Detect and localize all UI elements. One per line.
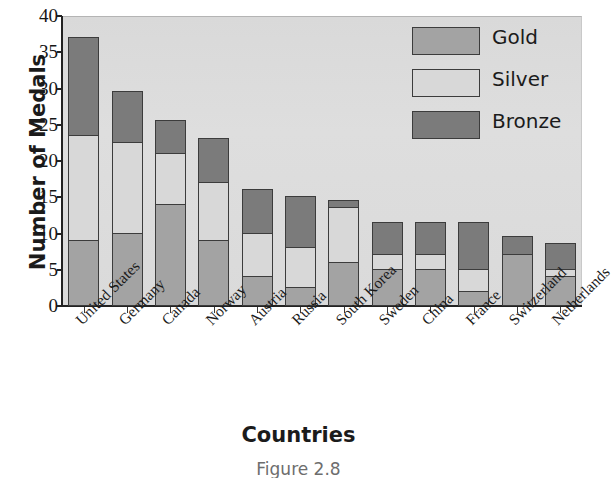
x-tick-mark bbox=[344, 307, 345, 313]
bar-segment-gold[interactable] bbox=[502, 254, 533, 306]
bar-segment-silver[interactable] bbox=[328, 207, 359, 262]
y-tick-label: 35 bbox=[24, 42, 58, 61]
bar-segment-silver[interactable] bbox=[372, 254, 403, 270]
bar-france[interactable] bbox=[458, 223, 489, 306]
bar-netherlands[interactable] bbox=[545, 244, 576, 306]
x-axis-title: Countries bbox=[0, 423, 597, 447]
legend: GoldSilverBronze bbox=[412, 24, 580, 150]
bar-segment-gold[interactable] bbox=[285, 287, 316, 306]
x-tick-mark bbox=[84, 307, 85, 313]
bar-segment-silver[interactable] bbox=[285, 247, 316, 288]
bar-segment-gold[interactable] bbox=[112, 233, 143, 307]
y-tick-label: 10 bbox=[24, 224, 58, 243]
bar-segment-bronze[interactable] bbox=[68, 37, 99, 136]
y-tick-label: 5 bbox=[24, 260, 58, 279]
bar-segment-bronze[interactable] bbox=[242, 189, 273, 234]
bar-germany[interactable] bbox=[112, 92, 143, 306]
legend-label: Silver bbox=[492, 67, 548, 91]
bar-segment-gold[interactable] bbox=[155, 204, 186, 307]
legend-item-bronze[interactable]: Bronze bbox=[412, 108, 580, 150]
bar-united-states[interactable] bbox=[68, 38, 99, 306]
bar-segment-silver[interactable] bbox=[458, 269, 489, 292]
y-tick-label: 20 bbox=[24, 151, 58, 170]
bar-segment-bronze[interactable] bbox=[458, 222, 489, 270]
bar-norway[interactable] bbox=[198, 139, 229, 306]
legend-label: Bronze bbox=[492, 109, 561, 133]
bar-china[interactable] bbox=[415, 223, 446, 306]
bar-austria[interactable] bbox=[242, 190, 273, 306]
bar-segment-bronze[interactable] bbox=[328, 200, 359, 208]
x-tick-mark bbox=[257, 307, 258, 313]
x-tick-mark bbox=[430, 307, 431, 313]
x-tick-mark bbox=[300, 307, 301, 313]
bar-segment-gold[interactable] bbox=[198, 240, 229, 306]
bar-segment-bronze[interactable] bbox=[155, 120, 186, 154]
bar-segment-silver[interactable] bbox=[242, 233, 273, 278]
bar-russia[interactable] bbox=[285, 197, 316, 306]
y-tick-label: 30 bbox=[24, 79, 58, 98]
bar-segment-silver[interactable] bbox=[545, 269, 576, 277]
y-tick-label: 15 bbox=[24, 187, 58, 206]
bar-segment-bronze[interactable] bbox=[285, 196, 316, 248]
bar-south-korea[interactable] bbox=[328, 201, 359, 306]
x-tick-mark bbox=[387, 307, 388, 313]
bar-segment-bronze[interactable] bbox=[502, 236, 533, 255]
bar-segment-gold[interactable] bbox=[68, 240, 99, 306]
bar-segment-silver[interactable] bbox=[415, 254, 446, 270]
bar-segment-gold[interactable] bbox=[545, 276, 576, 306]
x-tick-mark bbox=[560, 307, 561, 313]
bar-segment-bronze[interactable] bbox=[415, 222, 446, 256]
y-axis-ticks: 0510152025303540 bbox=[18, 0, 58, 306]
y-tick-label: 40 bbox=[24, 6, 58, 25]
x-tick-mark bbox=[474, 307, 475, 313]
x-tick-mark bbox=[127, 307, 128, 313]
bar-segment-gold[interactable] bbox=[458, 291, 489, 307]
y-tick-label: 0 bbox=[24, 296, 58, 315]
bar-segment-silver[interactable] bbox=[68, 135, 99, 241]
bar-segment-gold[interactable] bbox=[328, 262, 359, 307]
figure-caption: Figure 2.8 bbox=[0, 459, 597, 478]
legend-item-silver[interactable]: Silver bbox=[412, 66, 580, 108]
bar-switzerland[interactable] bbox=[502, 237, 533, 306]
bar-canada[interactable] bbox=[155, 121, 186, 306]
bar-segment-gold[interactable] bbox=[415, 269, 446, 306]
legend-item-gold[interactable]: Gold bbox=[412, 24, 580, 66]
y-tick-label: 25 bbox=[24, 115, 58, 134]
legend-swatch-bronze bbox=[412, 111, 480, 139]
bar-segment-bronze[interactable] bbox=[112, 91, 143, 143]
x-tick-mark bbox=[170, 307, 171, 313]
bar-sweden[interactable] bbox=[372, 223, 403, 306]
bar-segment-gold[interactable] bbox=[372, 269, 403, 306]
bar-segment-gold[interactable] bbox=[242, 276, 273, 306]
bar-segment-bronze[interactable] bbox=[545, 243, 576, 269]
x-tick-mark bbox=[214, 307, 215, 313]
legend-swatch-gold bbox=[412, 27, 480, 55]
legend-swatch-silver bbox=[412, 69, 480, 97]
x-tick-mark bbox=[517, 307, 518, 313]
bar-segment-bronze[interactable] bbox=[372, 222, 403, 256]
bar-segment-silver[interactable] bbox=[155, 153, 186, 205]
bar-segment-silver[interactable] bbox=[112, 142, 143, 234]
legend-label: Gold bbox=[492, 25, 538, 49]
bar-segment-bronze[interactable] bbox=[198, 138, 229, 183]
bar-segment-silver[interactable] bbox=[198, 182, 229, 241]
